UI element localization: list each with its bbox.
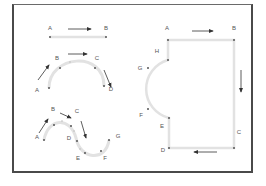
closed-shape-path <box>146 40 234 148</box>
label-b: B <box>51 106 55 112</box>
arc-diagram <box>38 54 111 89</box>
point-h <box>167 59 169 61</box>
point-d <box>168 147 170 149</box>
label-g: G <box>138 65 143 71</box>
straight-line-diagram <box>49 29 107 38</box>
point-b <box>59 67 61 69</box>
label-b: B <box>104 25 108 31</box>
point-c <box>94 67 96 69</box>
label-h: H <box>155 48 159 54</box>
point-mid <box>73 130 75 132</box>
label-g: G <box>116 133 121 139</box>
label-d: D <box>67 135 71 141</box>
arrow-up-right-icon <box>38 65 49 80</box>
label-b: B <box>232 25 236 31</box>
diagram-canvas <box>0 0 266 186</box>
label-a: A <box>48 25 52 31</box>
point-a <box>49 36 51 38</box>
arrow-right-icon <box>60 113 71 118</box>
diagram-figure: A B A B C D A B C D E F G A B C D E F G … <box>0 0 266 186</box>
point-c <box>233 147 235 149</box>
arc-path <box>49 61 104 88</box>
point-b <box>105 36 107 38</box>
point-d <box>76 140 78 142</box>
label-e: E <box>160 123 164 129</box>
label-f: F <box>103 155 107 161</box>
label-d: D <box>161 147 165 153</box>
point-f <box>147 108 149 110</box>
point-g <box>147 67 149 69</box>
label-c: C <box>75 108 79 114</box>
label-a: A <box>165 25 169 31</box>
point-b <box>53 124 55 126</box>
point-d <box>103 85 105 87</box>
label-c: C <box>95 55 99 61</box>
point-mid <box>61 120 63 122</box>
point-mid <box>69 61 71 63</box>
label-b: B <box>55 55 59 61</box>
point-a <box>43 139 45 141</box>
point-f <box>100 150 102 152</box>
label-c: C <box>237 129 241 135</box>
label-e: E <box>76 155 80 161</box>
s-curve-path <box>44 122 109 155</box>
arrow-down-icon <box>81 121 86 138</box>
label-f: F <box>139 112 143 118</box>
point-a <box>48 87 50 89</box>
label-d: D <box>109 86 113 92</box>
point-e <box>84 152 86 154</box>
point-b <box>233 39 235 41</box>
label-a: A <box>35 134 39 140</box>
point-a <box>167 39 169 41</box>
point-c <box>70 125 72 127</box>
point-mid <box>79 148 81 150</box>
closed-shape-diagram <box>146 31 241 152</box>
s-curve-diagram <box>39 113 110 156</box>
point-e <box>168 117 170 119</box>
point-g <box>108 139 110 141</box>
label-a: A <box>35 87 39 93</box>
